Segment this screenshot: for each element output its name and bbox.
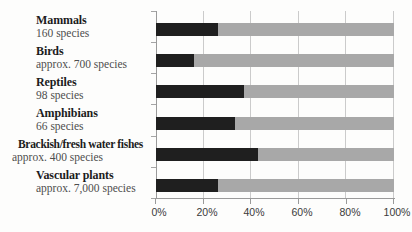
- x-tick-label-100: 100%: [384, 206, 411, 218]
- bar-fill-dark: [156, 179, 218, 192]
- bar-track: [156, 54, 394, 67]
- x-tick-label-20: 20%: [196, 206, 217, 218]
- category-label-amphibians: Amphibians 66 species: [0, 105, 156, 136]
- bar-row-vascular-plants: [156, 167, 394, 198]
- bar-row-reptiles: [156, 73, 394, 104]
- bar-row-birds: [156, 42, 394, 73]
- category-name: Vascular plants: [36, 169, 156, 182]
- x-axis-line: [156, 198, 395, 199]
- category-label-birds: Birds approx. 700 species: [0, 42, 156, 73]
- stacked-bar-chart: Mammals 160 species Birds approx. 700 sp…: [0, 0, 412, 232]
- bar-fill-dark: [156, 148, 258, 161]
- category-sublabel: 66 species: [36, 120, 156, 133]
- x-tick-label-80: 80%: [339, 206, 360, 218]
- category-label-column: Mammals 160 species Birds approx. 700 sp…: [0, 11, 156, 198]
- x-tick-60: [298, 198, 299, 204]
- bar-fill-dark: [156, 23, 218, 36]
- category-label-vascular-plants: Vascular plants approx. 7,000 species: [0, 167, 156, 198]
- category-sublabel: 98 species: [36, 89, 156, 102]
- category-label-mammals: Mammals 160 species: [0, 11, 156, 42]
- bar-track: [156, 85, 394, 98]
- category-name: Reptiles: [36, 76, 156, 89]
- category-name: Birds: [36, 45, 156, 58]
- x-tick-20: [203, 198, 204, 204]
- category-label-reptiles: Reptiles 98 species: [0, 73, 156, 104]
- x-tick-80: [346, 198, 347, 204]
- bar-fill-dark: [156, 85, 244, 98]
- x-tick-0: [155, 198, 156, 204]
- category-sublabel: approx. 400 species: [12, 151, 156, 164]
- category-sublabel: approx. 7,000 species: [36, 182, 156, 195]
- bar-track: [156, 179, 394, 192]
- category-name: Brackish/fresh water fishes: [12, 138, 156, 151]
- category-name: Mammals: [36, 14, 156, 27]
- x-tick-label-60: 60%: [291, 206, 312, 218]
- bar-row-amphibians: [156, 105, 394, 136]
- bar-row-mammals: [156, 11, 394, 42]
- bar-track: [156, 23, 394, 36]
- category-sublabel: approx. 700 species: [36, 58, 156, 71]
- x-tick-40: [250, 198, 251, 204]
- bar-track: [156, 117, 394, 130]
- bar-track: [156, 148, 394, 161]
- category-label-fishes: Brackish/fresh water fishes approx. 400 …: [0, 136, 156, 167]
- plot-area: [156, 11, 394, 198]
- bar-fill-dark: [156, 117, 235, 130]
- bar-fill-dark: [156, 54, 194, 67]
- x-tick-label-0: 0%: [151, 206, 166, 218]
- category-name: Amphibians: [36, 107, 156, 120]
- x-tick-100: [393, 198, 394, 204]
- x-tick-label-40: 40%: [243, 206, 264, 218]
- bar-rows: [156, 11, 394, 198]
- category-sublabel: 160 species: [36, 27, 156, 40]
- bar-row-fishes: [156, 136, 394, 167]
